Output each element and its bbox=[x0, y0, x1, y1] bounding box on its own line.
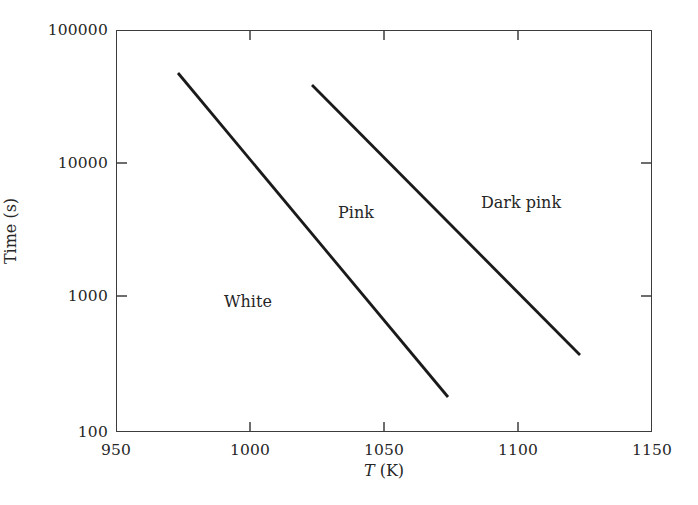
x-tick-label-1100: 1100 bbox=[498, 441, 538, 459]
y-tick-label-100000: 100000 bbox=[18, 21, 108, 39]
x-tick-label-1000: 1000 bbox=[230, 441, 270, 459]
phase-diagram-figure: 100000 10000 1000 100 950 1000 1050 1100… bbox=[0, 0, 698, 505]
x-axis-label-symbol: T bbox=[364, 461, 375, 480]
y-tick-label-100: 100 bbox=[18, 423, 108, 441]
x-tick-label-950: 950 bbox=[101, 441, 131, 459]
y-tick-label-10000: 10000 bbox=[18, 154, 108, 172]
x-axis-label-unit: (K) bbox=[380, 461, 404, 480]
x-tick-label-1050: 1050 bbox=[364, 441, 404, 459]
region-label-pink: Pink bbox=[338, 203, 374, 222]
y-tick-label-1000: 1000 bbox=[18, 287, 108, 305]
region-label-white: White bbox=[224, 292, 272, 311]
plot-frame bbox=[116, 30, 652, 432]
region-label-dark-pink: Dark pink bbox=[481, 193, 561, 212]
y-axis-label: Time (s) bbox=[1, 198, 20, 264]
x-tick-label-1150: 1150 bbox=[632, 441, 672, 459]
x-axis-label: T (K) bbox=[364, 461, 404, 480]
